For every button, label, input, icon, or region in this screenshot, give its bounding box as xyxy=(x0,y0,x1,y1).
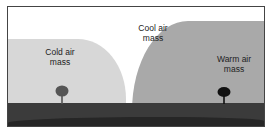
tree-icon xyxy=(55,85,69,104)
tree-icon xyxy=(217,86,231,104)
warm-label-line1: Warm air xyxy=(204,54,264,64)
warm-air-label: Warm air mass xyxy=(204,54,264,74)
cold-air-label: Cold air mass xyxy=(30,47,90,67)
ground-subsoil xyxy=(8,117,264,127)
cool-label-line1: Cool air xyxy=(123,23,183,33)
cold-label-line1: Cold air xyxy=(30,47,90,57)
warm-label-line2: mass xyxy=(204,64,264,74)
cold-label-line2: mass xyxy=(30,57,90,67)
cool-air-label: Cool air mass xyxy=(123,23,183,43)
cool-label-line2: mass xyxy=(123,33,183,43)
diagram-frame: Cold air mass Cool air mass Warm air mas… xyxy=(7,6,265,127)
